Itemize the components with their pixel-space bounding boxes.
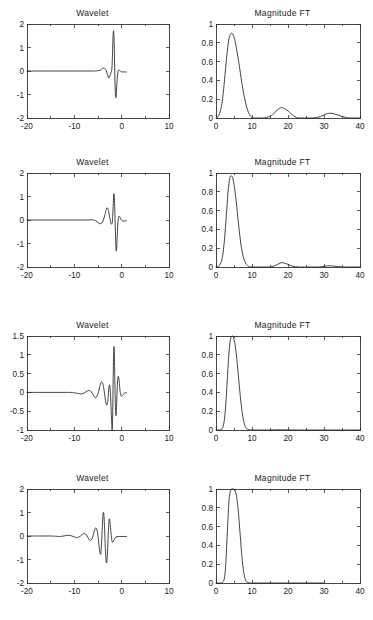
x-tick-label: -10 [68, 122, 80, 131]
plot-panel-magnitude-ft-row-1: Magnitude FT01020304000.20.40.60.81 [191, 8, 373, 134]
x-tick-label: 10 [164, 587, 174, 596]
y-tick-label: 0.2 [202, 95, 214, 104]
plot-panel-magnitude-ft-row-4: Magnitude FT01020304000.20.40.60.81 [191, 473, 373, 599]
x-tick-label: 0 [214, 271, 219, 280]
x-tick-label: 30 [319, 122, 329, 131]
plot-area-wavelet-row-3: -20-10010-1-0.500.511.5 [2, 320, 183, 446]
plot-area-magnitude-ft-row-4: 01020304000.20.40.60.81 [191, 473, 373, 599]
y-tick-label: 2 [19, 485, 24, 494]
data-series-magnitude [216, 176, 360, 267]
y-tick-label: 0.4 [202, 225, 214, 234]
x-tick-label: -20 [21, 271, 33, 280]
data-series-magnitude [216, 33, 360, 118]
x-tick-label: 0 [119, 587, 124, 596]
y-tick-label: -2 [17, 579, 25, 588]
plot-title: Wavelet [2, 157, 183, 167]
x-tick-label: 20 [283, 587, 293, 596]
y-tick-label: -2 [17, 114, 25, 123]
x-tick-label: 0 [214, 587, 219, 596]
plot-title: Magnitude FT [191, 157, 373, 167]
y-tick-label: 0.8 [202, 504, 214, 513]
y-tick-label: 0.2 [202, 560, 214, 569]
y-tick-label: 1 [208, 332, 213, 341]
data-series-wavelet [27, 194, 126, 251]
x-tick-label: -10 [68, 434, 80, 443]
plot-panel-magnitude-ft-row-3: Magnitude FT01020304000.20.40.60.81 [191, 320, 373, 446]
plot-title: Wavelet [2, 8, 183, 18]
data-series-wavelet [27, 346, 126, 430]
plot-area-wavelet-row-2: -20-10010-2-1012 [2, 157, 183, 283]
y-tick-label: 1 [208, 169, 213, 178]
y-tick-label: 1 [19, 193, 24, 202]
y-tick-label: 1 [19, 351, 24, 360]
plot-title: Magnitude FT [191, 8, 373, 18]
x-tick-label: 10 [247, 271, 257, 280]
x-tick-label: 0 [119, 434, 124, 443]
y-tick-label: -2 [17, 263, 25, 272]
y-tick-label: 1 [19, 44, 24, 53]
y-tick-label: 0.6 [202, 207, 214, 216]
plot-area-wavelet-row-4: -20-10010-2-1012 [2, 473, 183, 599]
y-tick-label: -1 [17, 426, 25, 435]
x-tick-label: 20 [283, 271, 293, 280]
x-tick-label: -20 [21, 122, 33, 131]
y-tick-label: 0.4 [202, 76, 214, 85]
plot-panel-wavelet-row-4: Wavelet-20-10010-2-1012 [2, 473, 183, 599]
x-tick-label: 30 [319, 434, 329, 443]
x-tick-label: -20 [21, 587, 33, 596]
y-tick-label: 0.6 [202, 370, 214, 379]
y-tick-label: 1 [208, 485, 213, 494]
plot-area-wavelet-row-1: -20-10010-2-1012 [2, 8, 183, 134]
x-tick-label: 40 [355, 271, 365, 280]
plot-title: Wavelet [2, 473, 183, 483]
y-tick-label: 0 [208, 263, 213, 272]
y-tick-label: 0 [19, 67, 24, 76]
y-tick-label: -1 [17, 556, 25, 565]
x-tick-label: 10 [164, 271, 174, 280]
y-tick-label: 1 [19, 509, 24, 518]
y-tick-label: 0.8 [202, 39, 214, 48]
y-tick-label: 2 [19, 20, 24, 29]
y-tick-label: 0 [208, 579, 213, 588]
x-tick-label: 0 [119, 122, 124, 131]
x-tick-label: 0 [119, 271, 124, 280]
y-tick-label: -1 [17, 240, 25, 249]
x-tick-label: 30 [319, 271, 329, 280]
y-tick-label: 0.2 [202, 407, 214, 416]
x-tick-label: 10 [247, 434, 257, 443]
y-tick-label: 0 [19, 532, 24, 541]
x-tick-label: 20 [283, 122, 293, 131]
plot-panel-wavelet-row-3: Wavelet-20-10010-1-0.500.511.5 [2, 320, 183, 446]
data-series-wavelet [27, 512, 126, 563]
y-tick-label: -1 [17, 91, 25, 100]
plot-panel-wavelet-row-2: Wavelet-20-10010-2-1012 [2, 157, 183, 283]
y-tick-label: 0.2 [202, 244, 214, 253]
plot-title: Wavelet [2, 320, 183, 330]
y-tick-label: 0.6 [202, 523, 214, 532]
plot-area-magnitude-ft-row-2: 01020304000.20.40.60.81 [191, 157, 373, 283]
data-series-magnitude [216, 336, 360, 430]
y-tick-label: 1.5 [13, 332, 25, 341]
x-tick-label: -20 [21, 434, 33, 443]
y-tick-label: 0 [208, 114, 213, 123]
plot-panel-magnitude-ft-row-2: Magnitude FT01020304000.20.40.60.81 [191, 157, 373, 283]
y-tick-label: 0.4 [202, 388, 214, 397]
plot-area-magnitude-ft-row-1: 01020304000.20.40.60.81 [191, 8, 373, 134]
y-tick-label: -0.5 [10, 407, 25, 416]
x-tick-label: 10 [247, 587, 257, 596]
x-tick-label: 40 [355, 122, 365, 131]
plot-area-magnitude-ft-row-3: 01020304000.20.40.60.81 [191, 320, 373, 446]
y-tick-label: 0 [208, 426, 213, 435]
y-tick-label: 0.8 [202, 351, 214, 360]
plot-title: Magnitude FT [191, 320, 373, 330]
plot-panel-wavelet-row-1: Wavelet-20-10010-2-1012 [2, 8, 183, 134]
x-tick-label: 30 [319, 587, 329, 596]
y-tick-label: 0.4 [202, 541, 214, 550]
y-tick-label: 0.5 [13, 370, 25, 379]
x-tick-label: -10 [68, 271, 80, 280]
x-tick-label: 20 [283, 434, 293, 443]
x-tick-label: 0 [214, 122, 219, 131]
x-tick-label: 40 [355, 587, 365, 596]
y-tick-label: 1 [208, 20, 213, 29]
data-series-wavelet [27, 31, 127, 98]
